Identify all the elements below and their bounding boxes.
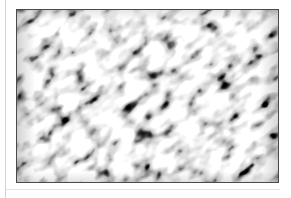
left-margin-rule [5,0,6,198]
figure-image-frame[interactable] [16,9,279,183]
noise-texture-image [17,10,278,182]
bottom-margin-rule [6,189,280,190]
texture-ridge-layer-secondary [17,10,278,182]
